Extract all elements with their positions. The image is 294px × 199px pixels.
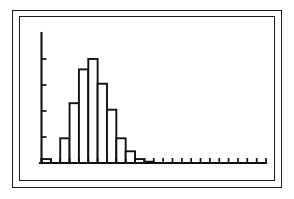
histogram-svg — [0, 0, 294, 199]
histogram-bar — [70, 103, 79, 163]
bars-group — [42, 59, 154, 163]
histogram-bar — [60, 138, 69, 163]
histogram-bar — [79, 69, 88, 163]
histogram-bar — [116, 138, 125, 163]
histogram-bar — [88, 59, 97, 163]
histogram-bar — [98, 84, 107, 163]
histogram-figure — [0, 0, 294, 199]
histogram-bar — [126, 151, 135, 163]
histogram-bar — [107, 110, 116, 163]
plot-area — [0, 0, 294, 199]
